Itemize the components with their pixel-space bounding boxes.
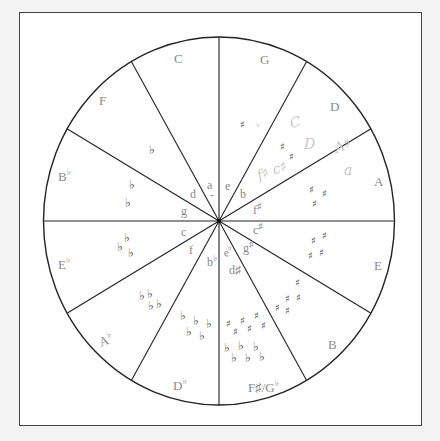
flat-icon: ♭ (156, 297, 162, 311)
handwritten-note: D (303, 136, 315, 152)
major-label-eflat: E♭ (58, 255, 70, 272)
sharp-icon: ♯ (240, 315, 245, 326)
flat-icon: ♭ (125, 196, 131, 210)
key-signature-bflat: ♭ ♭ (125, 178, 135, 210)
flat-icon: ♭ (128, 246, 134, 260)
minor-label-csharp: c♯ (253, 221, 263, 237)
major-label-g: G (260, 52, 269, 67)
handwritten-annotations: C D f♯ c♯ A♯ a ` (254, 113, 354, 184)
sharp-icon: ♯ (289, 151, 294, 162)
flat-icon: ♭ (199, 329, 205, 343)
sharp-icon: ♯ (322, 188, 327, 199)
key-signature-dflat: ♭ ♭ ♭ ♭ ♭ (180, 309, 212, 343)
handwritten-note: a (344, 162, 352, 178)
minor-label-bflat: b♭ (207, 253, 217, 269)
handwritten-note: ` (254, 123, 261, 139)
minor-label-e: e (225, 179, 230, 193)
divider-f-c (132, 62, 220, 221)
sharp-icon: ♯ (296, 292, 301, 303)
sharp-icon: ♯ (295, 277, 300, 288)
sharp-icon: ♯ (261, 320, 266, 331)
key-signature-fsharp-gflat: ♯ ♯ ♯ ♯ ♯ ♯ ♭ ♭ ♭ ♭ ♭ ♭ (224, 310, 266, 365)
flat-icon: ♭ (231, 351, 237, 365)
key-signature-b: ♯ ♯ ♯ ♯ ♯ (275, 277, 301, 316)
flat-icon: ♭ (117, 240, 123, 254)
major-key-labels: C G D A E B F♯/G♭ D♭ A♭ E♭ B♭ F (58, 51, 384, 395)
tick-mark: - (210, 188, 214, 202)
sharp-icon: ♯ (308, 250, 313, 261)
handwritten-note: C (288, 113, 303, 131)
flat-icon: ♭ (245, 351, 251, 365)
sharp-icon: ♯ (309, 184, 314, 195)
minor-label-c: c (181, 225, 186, 239)
key-signature-e: ♯ ♯ ♯ ♯ (308, 230, 327, 261)
sharp-icon: ♯ (319, 247, 324, 258)
flat-icon: ♭ (186, 325, 192, 339)
flat-icon: ♭ (238, 339, 244, 353)
key-signature-f: ♭ (149, 143, 155, 157)
key-signature-aflat: ♭ ♭ ♭ ♭ (139, 287, 162, 313)
minor-label-fsharp: f♯ (253, 201, 262, 217)
major-label-c: C (174, 51, 183, 66)
flat-icon: ♭ (224, 341, 230, 355)
minor-label-f: f (189, 243, 193, 257)
sharp-icon: ♯ (311, 235, 316, 246)
flat-icon: ♭ (148, 299, 154, 313)
divider-bflat-f (67, 129, 219, 221)
flat-icon: ♭ (124, 231, 130, 245)
minor-label-d: d (190, 187, 196, 201)
sharp-icon: ♯ (280, 141, 285, 152)
key-signature-eflat: ♭ ♭ ♭ (117, 231, 134, 260)
sharp-icon: ♯ (233, 326, 238, 337)
divider-g-d (219, 62, 307, 221)
key-signature-g: ♯ (240, 119, 245, 130)
minor-label-dsharp: d♯ (229, 263, 241, 277)
major-label-e: E (374, 258, 382, 273)
flat-icon: ♭ (253, 340, 259, 354)
flat-icon: ♭ (149, 143, 155, 157)
flat-icon: ♭ (259, 350, 265, 364)
flat-icon: ♭ (193, 314, 199, 328)
flat-icon: ♭ (139, 289, 145, 303)
flat-icon: ♭ (206, 317, 212, 331)
minor-label-gsharp: g♯ (243, 239, 254, 255)
sharp-icon: ♯ (275, 302, 280, 313)
flat-icon: ♭ (129, 178, 135, 192)
major-label-bflat: B♭ (58, 167, 71, 184)
major-label-dflat: D♭ (173, 376, 187, 393)
center-dot (217, 219, 221, 223)
flat-icon: ♭ (180, 309, 186, 323)
minor-label-b: b (240, 187, 246, 201)
sharp-icon: ♯ (285, 293, 290, 304)
major-label-f: F (99, 93, 106, 108)
key-signature-a: ♯ ♯ ♯ (309, 184, 327, 209)
sharp-icon: ♯ (240, 119, 245, 130)
sharp-icon: ♯ (226, 318, 231, 329)
major-label-aflat: A♭ (96, 329, 115, 350)
sharp-icon: ♯ (322, 230, 327, 241)
sharp-icon: ♯ (312, 198, 317, 209)
sharp-icon: ♯ (285, 305, 290, 316)
divider-e-b (219, 221, 371, 313)
sharp-icon: ♯ (247, 323, 252, 334)
major-label-a: A (374, 174, 384, 189)
circle-of-fifths-wheel: C G D A E B F♯/G♭ D♭ A♭ E♭ B♭ F (0, 0, 440, 441)
major-label-b: B (328, 337, 337, 352)
sharp-icon: ♯ (254, 310, 259, 321)
diagram-stage: C G D A E B F♯/G♭ D♭ A♭ E♭ B♭ F (0, 0, 440, 441)
major-label-d: D (330, 99, 339, 114)
minor-label-eflat: e♭ (220, 242, 234, 260)
major-label-fsharp-gflat: F♯/G♭ (248, 378, 279, 395)
handwritten-note: A♯ (329, 134, 353, 156)
minor-label-g: g (181, 204, 187, 218)
handwritten-note: f♯ c♯ (254, 158, 290, 184)
